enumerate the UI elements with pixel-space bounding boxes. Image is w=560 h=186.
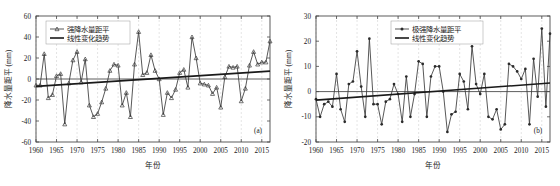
x-tick-label: 1960 bbox=[309, 147, 324, 155]
x-tick-label: 1965 bbox=[49, 147, 64, 155]
data-point-marker bbox=[327, 100, 330, 103]
data-point-marker bbox=[536, 95, 539, 98]
y-tick-label: 20 bbox=[304, 38, 312, 46]
x-tick-label: 1995 bbox=[172, 147, 187, 155]
legend-marker-icon bbox=[401, 28, 404, 31]
data-point-marker bbox=[425, 115, 428, 118]
data-point-marker bbox=[462, 80, 465, 83]
y-tick-label: 30 bbox=[304, 13, 312, 21]
data-point-marker bbox=[323, 103, 326, 106]
data-point-marker bbox=[401, 120, 404, 123]
data-point-marker bbox=[339, 108, 342, 111]
data-point-marker bbox=[508, 63, 511, 66]
y-tick-label: 0 bbox=[307, 88, 311, 96]
data-point-marker bbox=[417, 60, 420, 63]
data-point-marker bbox=[393, 83, 396, 86]
data-point-marker bbox=[372, 103, 375, 106]
plot-svg-b: -20-100102030196019651970197519801985199… bbox=[280, 0, 560, 186]
x-tick-label: 1990 bbox=[152, 147, 167, 155]
y-tick-label: -20 bbox=[301, 139, 311, 147]
x-tick-label: 1975 bbox=[370, 147, 385, 155]
legend-label-series: 强降水量距平 bbox=[67, 25, 109, 34]
data-point-marker bbox=[356, 50, 359, 53]
y-tick-label: -40 bbox=[21, 118, 31, 126]
data-point-marker bbox=[384, 100, 387, 103]
data-point-marker bbox=[532, 57, 535, 60]
x-tick-label: 2000 bbox=[473, 147, 488, 155]
data-point-marker bbox=[430, 75, 433, 78]
y-tick-label: 0 bbox=[27, 76, 31, 84]
y-tick-label: -20 bbox=[21, 97, 31, 105]
data-point-marker bbox=[545, 105, 548, 108]
data-point-marker bbox=[458, 73, 461, 76]
x-tick-label: 2010 bbox=[234, 147, 249, 155]
data-point-marker bbox=[499, 128, 502, 131]
data-point-marker bbox=[549, 32, 552, 35]
data-point-marker bbox=[380, 123, 383, 126]
legend-label-series: 极强降水量距平 bbox=[412, 25, 461, 34]
plot-svg-a: -60-40-200204060196019651970197519801985… bbox=[0, 0, 280, 186]
data-point-marker bbox=[343, 120, 346, 123]
data-point-marker bbox=[421, 63, 424, 66]
figure-container: -60-40-200204060196019651970197519801985… bbox=[0, 0, 560, 186]
x-tick-label: 1970 bbox=[70, 147, 85, 155]
x-tick-label: 2000 bbox=[193, 147, 208, 155]
data-point-marker bbox=[516, 70, 519, 73]
data-point-marker bbox=[347, 83, 350, 86]
data-point-marker bbox=[335, 73, 338, 76]
data-point-marker bbox=[503, 123, 506, 126]
data-point-marker bbox=[495, 108, 498, 111]
x-tick-label: 1980 bbox=[391, 147, 406, 155]
x-tick-label: 1970 bbox=[350, 147, 365, 155]
legend: 极强降水量距平线性变化趋势 bbox=[391, 21, 483, 44]
data-point-marker bbox=[409, 115, 412, 118]
data-point-marker bbox=[512, 65, 515, 68]
x-tick-label: 1990 bbox=[432, 147, 447, 155]
chart-panel-b: -20-100102030196019651970197519801985199… bbox=[280, 0, 560, 186]
legend-label-trend: 线性变化趋势 bbox=[67, 34, 110, 43]
data-point-marker bbox=[446, 131, 449, 134]
y-tick-label: 20 bbox=[24, 55, 32, 63]
data-point-marker bbox=[434, 65, 437, 68]
x-axis-title: 年份 bbox=[425, 160, 441, 170]
y-axis-title: 降水量距平 (mm) bbox=[3, 49, 13, 108]
data-point-marker bbox=[487, 115, 490, 118]
data-point-marker bbox=[368, 37, 371, 40]
y-tick-label: 40 bbox=[24, 34, 32, 42]
y-tick-label: -10 bbox=[301, 113, 311, 121]
data-point-marker bbox=[389, 98, 392, 101]
x-tick-label: 1985 bbox=[131, 147, 146, 155]
legend-label-trend: 线性变化趋势 bbox=[412, 34, 455, 43]
y-tick-label: -60 bbox=[21, 139, 31, 147]
data-point-marker bbox=[483, 73, 486, 76]
x-tick-label: 2010 bbox=[514, 147, 529, 155]
y-tick-label: 10 bbox=[304, 63, 312, 71]
data-point-marker bbox=[471, 45, 474, 48]
x-axis-title: 年份 bbox=[145, 160, 161, 170]
legend: 强降水量距平线性变化趋势 bbox=[46, 21, 130, 44]
chart-panel-a: -60-40-200204060196019651970197519801985… bbox=[0, 0, 280, 186]
y-tick-label: 60 bbox=[24, 13, 32, 21]
panel-tag: (b) bbox=[534, 127, 543, 135]
x-tick-label: 2005 bbox=[494, 147, 509, 155]
data-point-marker bbox=[364, 115, 367, 118]
data-point-marker bbox=[438, 65, 441, 68]
x-tick-label: 1965 bbox=[329, 147, 344, 155]
data-point-marker bbox=[491, 118, 494, 121]
data-point-marker bbox=[524, 68, 527, 71]
data-point-marker bbox=[467, 108, 470, 111]
x-tick-label: 1985 bbox=[411, 147, 426, 155]
data-point-marker bbox=[475, 83, 478, 86]
data-point-marker bbox=[454, 110, 457, 113]
data-point-marker bbox=[360, 85, 363, 88]
data-point-marker bbox=[450, 113, 453, 116]
data-point-marker bbox=[352, 80, 355, 83]
data-point-marker bbox=[528, 123, 531, 126]
data-point-marker bbox=[319, 115, 322, 118]
x-tick-label: 1995 bbox=[452, 147, 467, 155]
x-tick-label: 2005 bbox=[214, 147, 229, 155]
panel-tag: (a) bbox=[254, 127, 263, 135]
data-point-marker bbox=[376, 103, 379, 106]
data-point-marker bbox=[405, 75, 408, 78]
data-point-marker bbox=[540, 27, 543, 30]
